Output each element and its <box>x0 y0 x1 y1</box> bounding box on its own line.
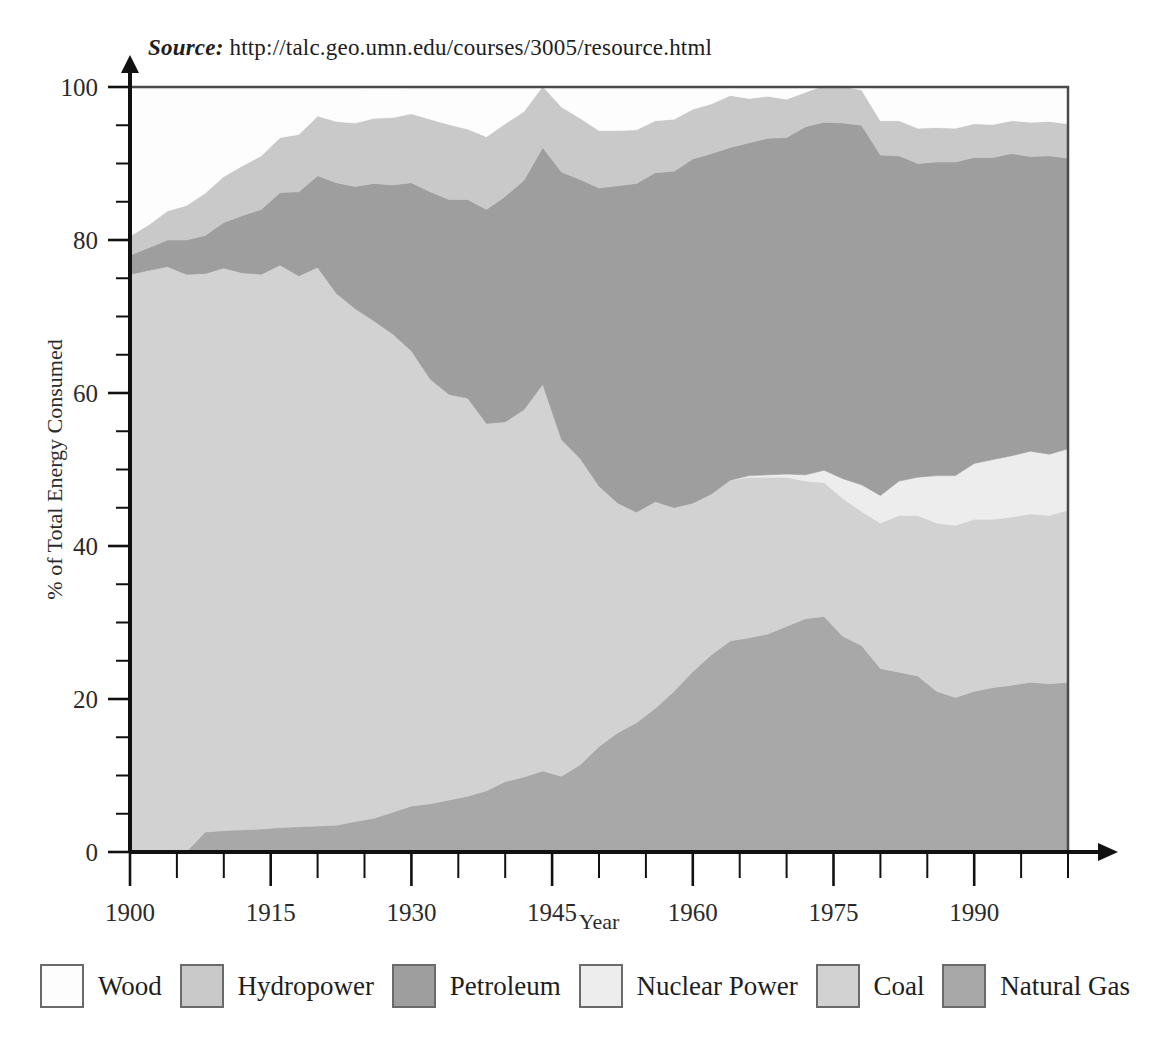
plot-area: 0204060801001900191519301945196019751990… <box>0 0 1149 1051</box>
legend-item-coal[interactable]: Coal <box>816 964 925 1008</box>
legend-label: Hydropower <box>238 971 374 1002</box>
legend-item-hydropower[interactable]: Hydropower <box>180 964 374 1008</box>
y-axis-arrow-icon <box>121 55 139 73</box>
x-tick-label: 1930 <box>386 899 436 926</box>
legend-swatch-icon <box>816 964 860 1008</box>
y-tick-label: 0 <box>86 839 99 866</box>
y-tick-label: 100 <box>61 74 99 101</box>
legend-swatch-icon <box>942 964 986 1008</box>
x-axis-arrow-icon <box>1098 843 1118 861</box>
x-tick-label: 1990 <box>949 899 999 926</box>
legend-label: Nuclear Power <box>637 971 798 1002</box>
y-tick-label: 20 <box>73 686 98 713</box>
y-tick-label: 80 <box>73 227 98 254</box>
legend-swatch-icon <box>392 964 436 1008</box>
x-tick-label: 1975 <box>809 899 859 926</box>
legend-item-petroleum[interactable]: Petroleum <box>392 964 561 1008</box>
legend-label: Wood <box>98 971 162 1002</box>
legend-swatch-icon <box>40 964 84 1008</box>
legend-item-nuclear-power[interactable]: Nuclear Power <box>579 964 798 1008</box>
y-tick-label: 40 <box>73 533 98 560</box>
x-axis-title: Year <box>579 909 620 934</box>
x-tick-label: 1915 <box>246 899 296 926</box>
legend-label: Natural Gas <box>1000 971 1130 1002</box>
y-axis-title: % of Total Energy Consumed <box>42 339 67 599</box>
legend-label: Petroleum <box>450 971 561 1002</box>
legend-swatch-icon <box>579 964 623 1008</box>
x-tick-label: 1945 <box>527 899 577 926</box>
legend-item-natural-gas[interactable]: Natural Gas <box>942 964 1130 1008</box>
stacked-area-svg: 0204060801001900191519301945196019751990… <box>0 0 1149 1051</box>
energy-consumption-chart: Source: http://talc.geo.umn.edu/courses/… <box>0 0 1149 1051</box>
x-tick-label: 1900 <box>105 899 155 926</box>
chart-legend: WoodHydropowerPetroleumNuclear PowerCoal… <box>40 958 1130 1014</box>
area-series-group <box>130 85 1068 852</box>
legend-swatch-icon <box>180 964 224 1008</box>
legend-label: Coal <box>874 971 925 1002</box>
x-tick-label: 1960 <box>668 899 718 926</box>
legend-item-wood[interactable]: Wood <box>40 964 162 1008</box>
y-tick-label: 60 <box>73 380 98 407</box>
